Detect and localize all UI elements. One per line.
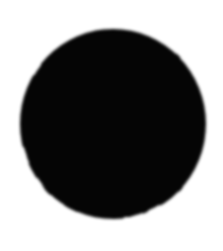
image-canvas: black circle on white background bbox=[0, 0, 223, 251]
shape-canvas-svg bbox=[0, 0, 223, 251]
filled-circle-shape bbox=[20, 29, 206, 219]
